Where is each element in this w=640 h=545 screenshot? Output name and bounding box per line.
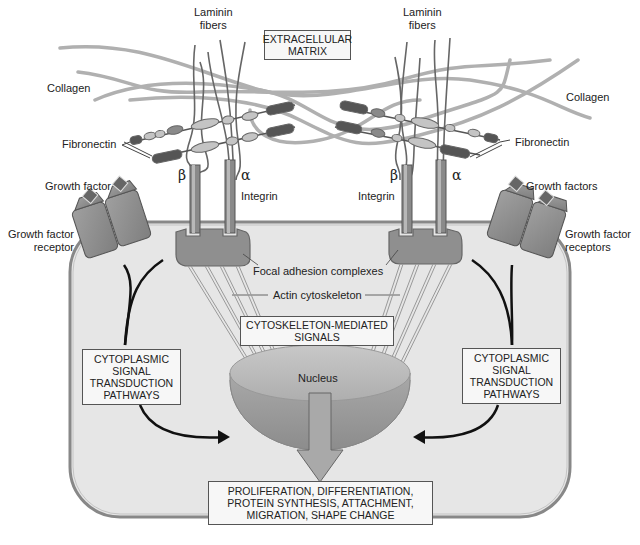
nucleus-label: Nucleus — [298, 372, 338, 385]
cytoskeleton-mediated-signals-box: CYTOSKELETON-MEDIATEDSIGNALS — [240, 316, 394, 346]
collagen-right-label: Collagen — [566, 91, 609, 104]
extracellular-matrix-box: EXTRACELLULARMATRIX — [264, 30, 351, 60]
growth-factors-right-label: Growth factors — [526, 180, 598, 193]
fibronectin-left — [122, 101, 295, 164]
growth-factor-receptors-right-label: Growth factorreceptors — [565, 228, 631, 254]
beta-subunit-left-label: β — [178, 167, 186, 183]
beta-subunit-right-label: β — [390, 167, 398, 183]
alpha-subunit-right-label: α — [452, 167, 461, 183]
growth-factor-receptor-left-label: Growth factorreceptor — [8, 228, 74, 254]
cytoplasmic-pathways-right-box: CYTOPLASMICSIGNAL TRANSDUCTIONPATHWAYS — [462, 348, 561, 404]
laminin-fibers-left-label: Lamininfibers — [194, 6, 233, 32]
laminin-fibers-right — [395, 38, 450, 180]
laminin-fibers-left — [187, 40, 245, 180]
fibronectin-right-label: Fibronectin — [515, 136, 569, 149]
collagen-fibers — [60, 47, 590, 144]
collagen-left-label: Collagen — [47, 82, 90, 95]
growth-factor-left-label: Growth factor — [45, 180, 111, 193]
alpha-subunit-left-label: α — [241, 167, 250, 183]
fibronectin-left-label: Fibronectin — [62, 138, 116, 151]
cytoplasmic-pathways-left-box: CYTOPLASMICSIGNAL TRANSDUCTIONPATHWAYS — [82, 349, 181, 405]
outcomes-box: PROLIFERATION, DIFFERENTIATION, PROTEIN … — [208, 481, 433, 525]
actin-cytoskeleton-label: Actin cytoskeleton — [273, 289, 362, 302]
integrin-left-label: Integrin — [241, 190, 278, 203]
laminin-fibers-right-label: Lamininfibers — [403, 6, 442, 32]
focal-adhesion-label: Focal adhesion complexes — [253, 265, 383, 278]
integrin-right-label: Integrin — [358, 190, 395, 203]
fibronectin-right — [335, 100, 510, 159]
